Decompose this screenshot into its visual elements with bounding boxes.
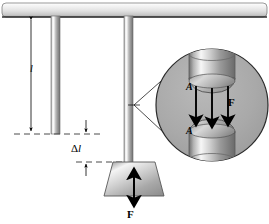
- label-delta-l: Δl: [71, 143, 81, 154]
- ceiling-beam: [2, 3, 267, 17]
- label-force-bottom: F: [127, 209, 134, 220]
- label-area-top: A: [186, 82, 193, 92]
- physics-figure-stress-strain: l Δl F F A A: [0, 0, 269, 224]
- figure-canvas: [0, 0, 269, 224]
- rod-unstretched: [51, 16, 60, 134]
- label-force-circle: F: [228, 97, 235, 108]
- label-delta-l-var: l: [78, 142, 81, 154]
- label-length-l: l: [30, 64, 33, 74]
- label-area-bottom: A: [186, 126, 193, 136]
- dashed-reference-lines: [14, 134, 122, 162]
- cylinder-upper-shaft: [189, 40, 235, 93]
